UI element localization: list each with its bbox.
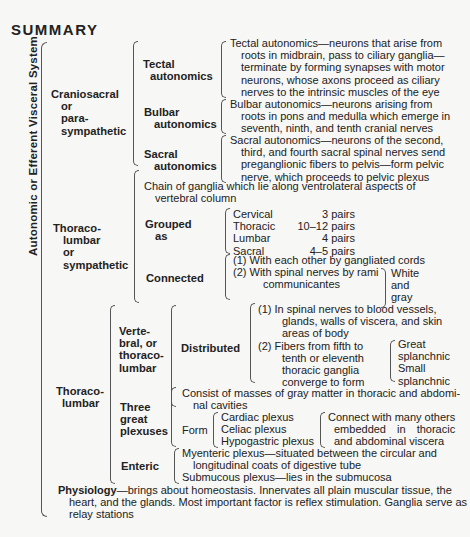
splanchnic-list: Great splanchnic Small splanchnic: [398, 338, 450, 387]
sacral-text: Sacral autonomics—neurons of the second,…: [230, 134, 445, 183]
grouped-bracket: [225, 208, 230, 254]
forms-list: Cardiac plexus Celiac plexus Hypogastric…: [221, 411, 314, 448]
tectal-text: Tectal autonomics—neurons that arise fro…: [230, 37, 445, 98]
splanchnic-bracket: [390, 340, 395, 382]
page-title: SUMMARY: [11, 24, 98, 36]
grouped-label: Grouped as: [145, 218, 192, 242]
connect-text: Connect with many others embedded in tho…: [328, 411, 455, 448]
chain-text: Chain of ganglia which lie along ventrol…: [144, 180, 416, 204]
sacral-label: Sacral autonomics: [144, 148, 217, 172]
consist-text: Consist of masses of gray matter in thor…: [182, 387, 460, 411]
craniosacral-label: Craniosacral or para- sympathetic: [51, 88, 126, 137]
enteric-label: Enteric: [121, 460, 159, 472]
rami-bracket: [381, 268, 386, 308]
form-label: Form: [182, 424, 208, 436]
plexuses-label: Three great plexuses: [120, 401, 168, 438]
rami-types: White and gray: [391, 267, 419, 304]
bulbar-label: Bulbar autonomics: [144, 106, 217, 130]
sacral-bracket: [221, 135, 226, 183]
form-bracket: [213, 412, 218, 448]
bulbar-text: Bulbar autonomics—neurons arising from r…: [230, 98, 450, 135]
tectal-bracket: [221, 41, 226, 98]
tectal-label: Tectal autonomics: [143, 58, 213, 82]
connect-bracket: [320, 412, 325, 448]
grouped-table: Cervical3 pairs Thoracic10–12 pairs Lumb…: [233, 208, 355, 257]
thoracolumbar-bracket: [110, 305, 115, 484]
thoracolumbar-sympathetic-label: Thoraco- lumbar or sympathetic: [53, 222, 128, 271]
enteric-text: Myenteric plexus—situated between the ci…: [182, 447, 437, 484]
connected-label: Connected: [146, 272, 204, 284]
thoracolumbar-label: Thoraco- lumbar: [56, 385, 104, 409]
craniosacral-bracket: [133, 41, 138, 166]
root-bracket: [41, 42, 47, 517]
sympathetic-bracket: [134, 170, 139, 303]
physiology-label: Physiology: [58, 484, 117, 496]
root-label: Autonomic or Efferent Visceral System: [27, 36, 39, 256]
distributed-bracket: [250, 303, 255, 383]
connected-bracket: [225, 254, 230, 300]
vertebral-label: Verte- bral, or thoraco- lumbar: [119, 325, 164, 374]
bulbar-bracket: [221, 99, 226, 134]
distributed-label: Distributed: [181, 342, 240, 354]
plexuses-bracket: [171, 387, 176, 447]
enteric-bracket: [174, 448, 179, 484]
physiology-text: Physiology—brings about homeostasis. Inn…: [58, 484, 467, 521]
